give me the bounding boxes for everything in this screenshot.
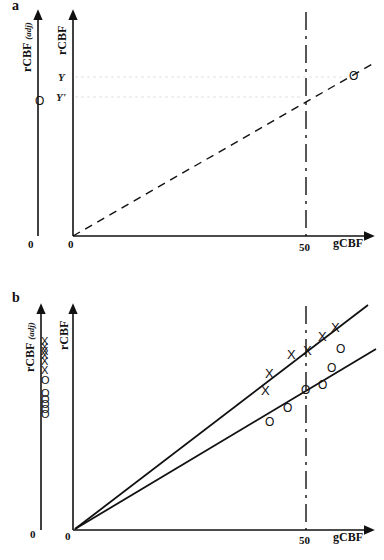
svg-text:X: X	[331, 320, 340, 335]
svg-text:X: X	[261, 383, 270, 398]
svg-text:X: X	[303, 343, 312, 358]
svg-text:O: O	[336, 342, 345, 356]
svg-text:O: O	[41, 408, 50, 420]
gcbf-axis-label: gCBF	[333, 530, 363, 544]
svg-text:rCBF: rCBF	[55, 26, 69, 55]
adjusted-x-markers: X X X X X X	[41, 335, 49, 376]
panel-b: b rCBF(adj) X X X X X X O O O O O O 0 rC…	[12, 290, 376, 546]
svg-text:O: O	[301, 383, 310, 397]
origin-label: 0	[65, 530, 71, 542]
adjusted-rcbf-axis-label: rCBF(adj)	[20, 22, 34, 72]
svg-text:O: O	[265, 415, 274, 429]
adjusted-o-markers: O O O O O O	[41, 374, 50, 420]
figure: a rCBF(adj) O 0 rCBF Y Y' 0 50 gCBF O b	[0, 0, 384, 560]
svg-text:O: O	[318, 378, 327, 392]
left-origin-label: 0	[28, 238, 34, 250]
svg-text:rCBF(adj): rCBF(adj)	[23, 322, 37, 372]
panel-b-label: b	[12, 290, 20, 305]
x-tick-50: 50	[299, 241, 311, 253]
svg-text:X: X	[287, 347, 296, 362]
svg-text:O: O	[283, 401, 292, 415]
rcbf-axis-label: rCBF	[57, 321, 71, 350]
svg-text:O: O	[327, 361, 336, 375]
gcbf-axis-label: gCBF	[333, 236, 363, 250]
y-prime-level-label: Y'	[56, 91, 66, 103]
rcbf-axis-label: rCBF	[55, 26, 69, 55]
svg-text:X: X	[318, 329, 327, 344]
svg-text:rCBF: rCBF	[57, 321, 71, 350]
circle-marker: O	[349, 69, 358, 83]
origin-label: 0	[68, 238, 74, 250]
svg-text:rCBF(adj): rCBF(adj)	[20, 22, 34, 72]
left-origin-label: 0	[30, 528, 36, 540]
svg-text:X: X	[265, 366, 274, 381]
adjusted-circle-marker: O	[35, 94, 44, 108]
y-level-label: Y	[58, 71, 66, 83]
adjusted-rcbf-axis-label: rCBF(adj)	[23, 322, 37, 372]
panel-a-label: a	[12, 0, 19, 13]
svg-text:O: O	[41, 374, 50, 386]
panel-a: a rCBF(adj) O 0 rCBF Y Y' 0 50 gCBF O	[12, 0, 374, 253]
proportional-dashed-line	[73, 63, 374, 236]
x-tick-50: 50	[299, 534, 311, 546]
regression-line-o-group	[75, 349, 376, 529]
